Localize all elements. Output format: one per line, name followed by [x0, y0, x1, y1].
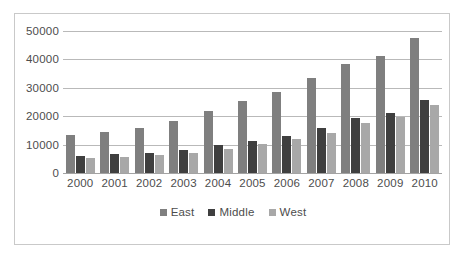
bar-east-2006[interactable]	[272, 92, 281, 173]
y-axis-tick-label: 0	[52, 167, 59, 179]
bar-middle-2007[interactable]	[317, 128, 326, 173]
bar-west-2006[interactable]	[292, 139, 301, 173]
bar-west-2001[interactable]	[120, 157, 129, 173]
bar-middle-2000[interactable]	[76, 156, 85, 173]
bar-east-2005[interactable]	[238, 101, 247, 173]
bar-group	[408, 31, 442, 173]
plot-area	[63, 31, 442, 173]
bar-middle-2008[interactable]	[351, 118, 360, 173]
x-axis-tick-label: 2005	[235, 177, 269, 197]
bar-middle-2005[interactable]	[248, 141, 257, 173]
bar-west-2008[interactable]	[361, 123, 370, 173]
bar-group	[373, 31, 407, 173]
x-axis-tick-label: 2000	[63, 177, 97, 197]
bar-group	[201, 31, 235, 173]
x-axis-tick-label: 2001	[97, 177, 131, 197]
bar-east-2002[interactable]	[135, 128, 144, 173]
legend-label: Middle	[219, 206, 254, 218]
bar-group	[132, 31, 166, 173]
legend-item-west[interactable]: West	[269, 206, 307, 218]
bar-group	[63, 31, 97, 173]
x-axis-tick-label: 2010	[408, 177, 442, 197]
bar-west-2009[interactable]	[396, 117, 405, 173]
x-axis-tick-label: 2003	[166, 177, 200, 197]
bar-east-2000[interactable]	[66, 135, 75, 173]
bar-east-2001[interactable]	[100, 132, 109, 173]
bar-east-2010[interactable]	[410, 38, 419, 173]
legend-item-east[interactable]: East	[160, 206, 195, 218]
bar-west-2002[interactable]	[155, 155, 164, 173]
bar-west-2010[interactable]	[430, 105, 439, 173]
bar-group	[339, 31, 373, 173]
x-axis-tick-label: 2009	[373, 177, 407, 197]
bar-group	[270, 31, 304, 173]
x-axis-tick-label: 2008	[339, 177, 373, 197]
y-axis: 01000020000300004000050000	[15, 14, 63, 180]
legend-swatch-icon	[160, 209, 167, 216]
bars-layer	[63, 31, 442, 173]
bar-middle-2004[interactable]	[214, 145, 223, 173]
bar-middle-2010[interactable]	[420, 100, 429, 173]
bar-west-2000[interactable]	[86, 158, 95, 173]
x-axis: 2000200120022003200420052006200720082009…	[63, 177, 442, 197]
bar-middle-2003[interactable]	[179, 150, 188, 173]
bar-east-2009[interactable]	[376, 56, 385, 173]
x-axis-tick-label: 2007	[304, 177, 338, 197]
bar-middle-2006[interactable]	[282, 136, 291, 173]
bar-east-2004[interactable]	[204, 111, 213, 173]
axis-baseline	[63, 173, 442, 174]
bar-group	[304, 31, 338, 173]
chart-frame: 01000020000300004000050000 2000200120022…	[14, 13, 450, 245]
x-axis-tick-label: 2006	[270, 177, 304, 197]
legend-label: West	[280, 206, 307, 218]
bar-west-2005[interactable]	[258, 144, 267, 173]
y-axis-tick-label: 10000	[26, 139, 59, 151]
bar-east-2003[interactable]	[169, 121, 178, 173]
bar-west-2003[interactable]	[189, 153, 198, 173]
legend-swatch-icon	[269, 209, 276, 216]
y-axis-tick-label: 50000	[26, 25, 59, 37]
bar-group	[97, 31, 131, 173]
x-axis-tick-label: 2004	[201, 177, 235, 197]
bar-group	[166, 31, 200, 173]
bar-middle-2002[interactable]	[145, 153, 154, 173]
x-axis-tick-label: 2002	[132, 177, 166, 197]
bar-middle-2001[interactable]	[110, 154, 119, 173]
y-axis-tick-label: 40000	[26, 53, 59, 65]
legend-label: East	[171, 206, 195, 218]
bar-east-2007[interactable]	[307, 78, 316, 173]
legend-item-middle[interactable]: Middle	[208, 206, 254, 218]
y-axis-tick-label: 20000	[26, 110, 59, 122]
bar-east-2008[interactable]	[341, 64, 350, 173]
bar-middle-2009[interactable]	[386, 113, 395, 173]
plot-region: 01000020000300004000050000 2000200120022…	[15, 14, 451, 246]
y-axis-tick-label: 30000	[26, 82, 59, 94]
legend-swatch-icon	[208, 209, 215, 216]
bar-west-2004[interactable]	[224, 149, 233, 173]
bar-group	[235, 31, 269, 173]
bar-west-2007[interactable]	[327, 133, 336, 173]
chart-legend: EastMiddleWest	[15, 206, 451, 218]
